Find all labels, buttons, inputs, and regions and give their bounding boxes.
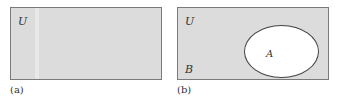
caption-a: (a) [10,84,24,95]
venn-universe-a: U [10,7,162,80]
scan-stripe [35,8,39,79]
complement-label: B [185,63,193,76]
set-a-ellipse [244,25,319,78]
venn-universe-b: U B A [177,7,329,80]
universe-label: U [18,15,27,28]
caption-b: (b) [177,84,191,95]
set-a-label: A [266,48,273,59]
universe-label: U [185,15,194,28]
